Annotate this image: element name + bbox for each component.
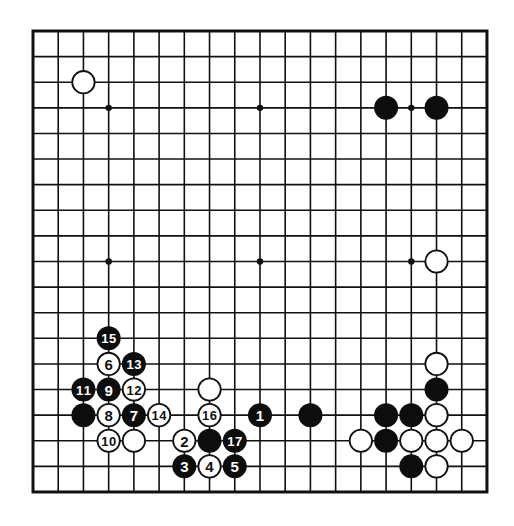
white-stone	[425, 404, 447, 426]
black-stone: 17	[223, 429, 247, 453]
move-number-label: 10	[101, 434, 116, 449]
black-stone-icon	[374, 96, 398, 120]
black-stone-icon	[425, 378, 449, 402]
black-stone-icon	[198, 429, 222, 453]
move-number-label: 1	[256, 407, 264, 424]
move-number-label: 15	[101, 331, 116, 346]
black-stone-icon	[374, 403, 398, 427]
white-stone	[400, 430, 422, 452]
black-stone	[399, 403, 423, 427]
white-stone-icon	[123, 430, 145, 452]
star-point	[408, 105, 414, 111]
move-number-label: 4	[205, 458, 214, 475]
white-stone: 16	[198, 404, 220, 426]
black-stone: 11	[71, 378, 95, 402]
move-number-label: 16	[202, 408, 217, 423]
black-stone: 1	[248, 403, 272, 427]
star-point	[105, 105, 111, 111]
white-stone: 8	[97, 404, 119, 426]
move-number-label: 12	[126, 383, 141, 398]
star-point	[105, 258, 111, 264]
black-stone: 7	[122, 403, 146, 427]
black-stone	[425, 378, 449, 402]
white-stone: 12	[123, 378, 145, 400]
white-stone	[425, 455, 447, 477]
white-stone-icon	[425, 404, 447, 426]
white-stone-icon	[425, 430, 447, 452]
white-stone: 2	[173, 430, 195, 452]
black-stone-icon	[71, 403, 95, 427]
white-stone	[451, 430, 473, 452]
move-number-label: 3	[180, 458, 188, 475]
white-stone-icon	[451, 430, 473, 452]
star-point	[257, 105, 263, 111]
move-number-label: 14	[152, 408, 168, 423]
black-stone	[399, 454, 423, 478]
white-stone	[350, 430, 372, 452]
black-stone-icon	[399, 403, 423, 427]
white-stone	[425, 353, 447, 375]
black-stone: 13	[122, 352, 146, 376]
move-number-label: 13	[126, 357, 141, 372]
black-stone-icon	[374, 429, 398, 453]
white-stone	[425, 250, 447, 272]
move-number-label: 17	[227, 434, 242, 449]
white-stone: 4	[198, 455, 220, 477]
white-stone-icon	[198, 378, 220, 400]
white-stone-icon	[425, 250, 447, 272]
move-number-label: 6	[104, 356, 112, 373]
black-stone: 3	[172, 454, 196, 478]
stones-layer: 1561311912871410161217345	[71, 71, 472, 478]
black-stone-icon	[298, 403, 322, 427]
move-number-label: 7	[130, 407, 138, 424]
white-stone: 6	[97, 353, 119, 375]
star-point	[257, 258, 263, 264]
black-stone	[71, 403, 95, 427]
go-board[interactable]: 1561311912871410161217345	[0, 0, 514, 526]
white-stone-icon	[72, 71, 94, 93]
white-stone-icon	[425, 353, 447, 375]
white-stone	[123, 430, 145, 452]
move-number-label: 11	[76, 383, 91, 398]
white-stone	[198, 378, 220, 400]
white-stone-icon	[400, 430, 422, 452]
move-number-label: 9	[104, 382, 112, 399]
move-number-label: 8	[104, 407, 112, 424]
black-stone	[425, 96, 449, 120]
white-stone	[72, 71, 94, 93]
black-stone-icon	[399, 454, 423, 478]
star-point	[408, 258, 414, 264]
white-stone-icon	[350, 430, 372, 452]
black-stone-icon	[425, 96, 449, 120]
move-number-label: 5	[231, 458, 239, 475]
black-stone: 15	[97, 326, 121, 350]
black-stone: 9	[97, 378, 121, 402]
black-stone	[198, 429, 222, 453]
black-stone	[374, 429, 398, 453]
move-number-label: 2	[180, 433, 188, 450]
white-stone-icon	[425, 455, 447, 477]
white-stone	[425, 430, 447, 452]
black-stone	[374, 96, 398, 120]
white-stone: 10	[97, 430, 119, 452]
black-stone: 5	[223, 454, 247, 478]
black-stone	[298, 403, 322, 427]
white-stone: 14	[148, 404, 170, 426]
black-stone	[374, 403, 398, 427]
